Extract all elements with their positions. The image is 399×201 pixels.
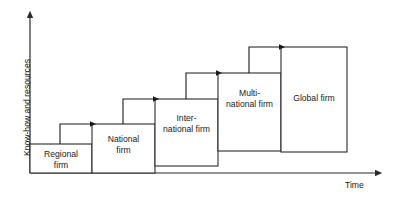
stage-box-multinational-firm[interactable] [218,73,281,151]
x-axis-label: Time [345,180,364,190]
arrow-national-to-international [123,99,153,124]
arrow-regional-to-national [60,124,90,144]
arrow-multinational-to-global [249,47,279,73]
stage-box-national-firm[interactable] [92,124,155,173]
arrow-international-to-multinational [186,73,216,99]
y-axis-label: Know-how and resources [22,59,32,156]
diagram-canvas [0,0,399,201]
stage-boxes-group [30,47,347,173]
stage-box-global-firm[interactable] [281,47,347,152]
stage-box-international-firm[interactable] [155,99,218,166]
internationalisation-stages-diagram: Regional firm National firm Inter- natio… [0,0,399,201]
stage-box-regional-firm[interactable] [30,144,92,173]
